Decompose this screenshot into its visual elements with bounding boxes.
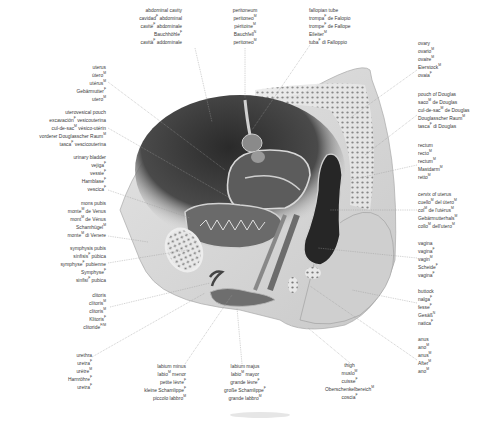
- label-line: symphysis pubis: [20, 245, 106, 253]
- label-line: tascaF vescicouterina: [0, 141, 106, 149]
- label-line: AfterM: [418, 360, 493, 368]
- label-line: thigh: [312, 362, 387, 370]
- label-line: cuelloM del úteroM: [418, 199, 497, 207]
- label-uterus: uterusúteroMutérusMGebärmutterFuteroM: [20, 64, 106, 104]
- label-cervix: cervix of uteruscuelloM del úteroMcolM d…: [418, 191, 497, 231]
- label-line: sacoM de Douglas: [418, 99, 497, 107]
- label-line: grande labbroM: [210, 395, 280, 403]
- label-anus: anusanoManusMAfterManoM: [418, 336, 493, 376]
- label-pouch-of-douglas: pouch of DouglassacoM de Douglascul-de-s…: [418, 91, 497, 131]
- label-line: kleine SchamlippeF: [120, 387, 186, 395]
- label-line: BauchhöhleF: [120, 31, 182, 39]
- label-line: excavaciónF vesicouterina: [0, 117, 106, 125]
- label-line: mons pubis: [20, 200, 106, 208]
- label-rectum: rectumrectoMrectumMMastdarmMrettoM: [418, 142, 493, 182]
- label-line: clitoris: [40, 292, 106, 300]
- label-line: vejigaF: [20, 162, 106, 170]
- label-line: ovaireM: [418, 56, 493, 64]
- label-line: labium majus: [210, 363, 280, 371]
- label-line: vaginaF: [418, 272, 493, 280]
- label-symphysis-pubis: symphysis pubissínfisisF púbicasymphyseF…: [20, 245, 106, 285]
- label-line: cavidadF abdominal: [120, 15, 182, 23]
- label-abdominal-cavity: abdominal cavitycavidadF abdominalcavité…: [120, 7, 182, 47]
- label-line: monteM di Venere: [20, 232, 106, 240]
- label-line: fesseF: [418, 304, 493, 312]
- label-line: anus: [418, 336, 493, 344]
- label-line: urètreM: [40, 368, 92, 376]
- label-line: fallopian tube: [309, 7, 389, 15]
- label-buttock: buttocknalgaFfesseFGesäßNnaticaF: [418, 288, 493, 328]
- label-line: ovaiaF: [418, 72, 493, 80]
- label-line: peritoneum: [222, 7, 268, 15]
- label-peritoneum: peritoneumperitoneoMpéritoineMBauchfellN…: [222, 7, 268, 47]
- label-line: tascaF di Douglas: [418, 123, 497, 131]
- label-line: urinary bladder: [20, 154, 106, 162]
- label-clitoris: clitorisclítorisMclitorisMKlitorisFclito…: [40, 292, 106, 332]
- label-line: sínfisisF púbica: [20, 253, 106, 261]
- label-line: vessieF: [20, 170, 106, 178]
- label-line: sinfisiF pubica: [20, 277, 106, 285]
- label-line: EileiterM: [309, 31, 389, 39]
- label-line: BauchfellN: [222, 31, 268, 39]
- label-line: cavitéF abdominale: [120, 23, 182, 31]
- label-line: úteroM: [20, 72, 106, 80]
- label-line: cuisseF: [312, 378, 387, 386]
- label-line: OberschenkelbereichM: [312, 386, 387, 394]
- label-line: uretraF: [40, 384, 92, 392]
- label-line: montM de Vénus: [20, 216, 106, 224]
- label-line: rettoM: [418, 174, 493, 182]
- label-labium-majus: labium majuslabioM mayorgrande lèvreFgro…: [210, 363, 280, 403]
- label-line: uterovesical pouch: [0, 109, 106, 117]
- label-line: tubaF di Falloppio: [309, 39, 389, 47]
- label-line: uterus: [20, 64, 106, 72]
- label-line: monteM de Venus: [20, 208, 106, 216]
- label-line: ovary: [418, 40, 493, 48]
- label-line: labioM mayor: [210, 371, 280, 379]
- label-urinary-bladder: urinary bladdervejigaFvessieFHarnblaseFv…: [20, 154, 106, 194]
- label-line: clitorideF/M: [40, 324, 106, 332]
- label-line: HarnblaseF: [20, 178, 106, 186]
- label-line: anoM: [418, 368, 493, 376]
- label-line: große SchamlippeF: [210, 387, 280, 395]
- label-line: vescicaF: [20, 186, 106, 194]
- label-line: cul-de-sacM de Douglas: [418, 107, 497, 115]
- label-labium-minus: labium minuslabioM menorpetite lèvreFkle…: [120, 363, 186, 403]
- label-line: péritoineM: [222, 23, 268, 31]
- label-line: GesäßN: [418, 312, 493, 320]
- label-line: cosciaF: [312, 394, 387, 402]
- label-line: peritoneoM: [222, 39, 268, 47]
- label-thigh: thighmusloMcuisseFOberschenkelbereichMco…: [312, 362, 387, 402]
- label-urethra: urethrauretraFurètreMHarnröhreFuretraF: [40, 352, 92, 392]
- label-line: peritoneoM: [222, 15, 268, 23]
- label-line: grande lèvreF: [210, 379, 280, 387]
- label-line: vaginM: [418, 256, 493, 264]
- label-line: piccolo labbroM: [120, 395, 186, 403]
- label-line: colM de l'utérusM: [418, 207, 497, 215]
- label-line: naticaF: [418, 320, 493, 328]
- label-vagina: vaginavaginaFvaginMScheideFvaginaF: [418, 240, 493, 280]
- label-line: clítorisM: [40, 300, 106, 308]
- label-line: trompeF de Fallope: [309, 23, 389, 31]
- label-line: cavitàF addominale: [120, 39, 182, 47]
- label-line: clitorisM: [40, 308, 106, 316]
- label-line: utérusM: [20, 80, 106, 88]
- label-line: HarnröhreF: [40, 376, 92, 384]
- label-line: uteroM: [20, 96, 106, 104]
- label-line: urethra: [40, 352, 92, 360]
- label-uterovesical-pouch: uterovesical pouchexcavaciónF vesicouter…: [0, 109, 106, 149]
- label-line: abdominal cavity: [120, 7, 182, 15]
- label-line: vagina: [418, 240, 493, 248]
- label-line: ovarioM: [418, 48, 493, 56]
- label-ovary: ovaryovarioMovaireMEierstockMovaiaF: [418, 40, 493, 80]
- label-line: rectoM: [418, 150, 493, 158]
- label-line: rectumM: [418, 158, 493, 166]
- label-line: labioM menor: [120, 371, 186, 379]
- label-fallopian-tube: fallopian tubetrompaF de FalopiotrompeF …: [309, 7, 389, 47]
- label-line: ScheideF: [418, 264, 493, 272]
- label-line: musloM: [312, 370, 387, 378]
- label-line: vorderer Douglasscher RaumM: [0, 133, 106, 141]
- label-line: SchamhügelM: [20, 224, 106, 232]
- label-line: uretraF: [40, 360, 92, 368]
- label-line: petite lèvreF: [120, 379, 186, 387]
- label-line: colloM dell'uteroM: [418, 223, 497, 231]
